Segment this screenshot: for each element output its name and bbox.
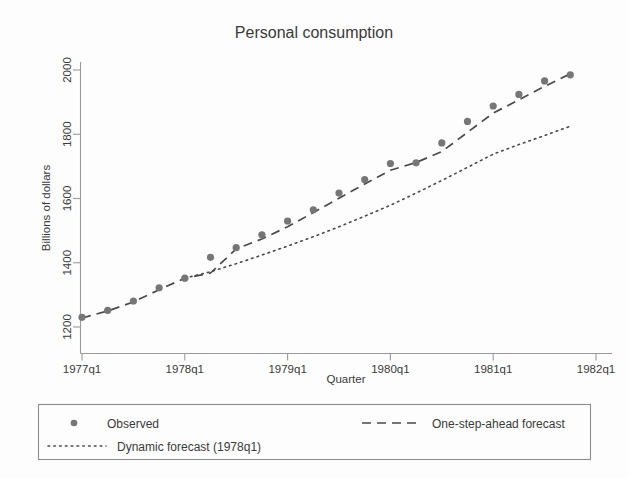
- x-tick-label: 1978q1: [166, 363, 204, 375]
- observed-data-point: [335, 189, 342, 196]
- chart-title: Personal consumption: [235, 24, 393, 41]
- observed-data-point: [567, 71, 574, 78]
- observed-data-point: [156, 284, 163, 291]
- x-tick-label: 1980q1: [371, 363, 409, 375]
- observed-data-point: [387, 160, 394, 167]
- x-axis-title: Quarter: [327, 373, 366, 385]
- legend-label-dynamic-forecast: Dynamic forecast (1978q1): [117, 440, 261, 454]
- legend-label-one-step-ahead: One-step-ahead forecast: [432, 417, 565, 431]
- observed-data-point: [310, 206, 317, 213]
- observed-data-point: [413, 159, 420, 166]
- chart-legend: Observed One-step-ahead forecast Dynamic…: [39, 405, 591, 460]
- legend-marker-observed: [71, 420, 78, 427]
- x-axis-ticks: 1977q11978q11979q11980q11981q11982q1: [63, 354, 615, 376]
- observed-data-point: [233, 244, 240, 251]
- x-tick-label: 1982q1: [577, 363, 615, 375]
- x-tick-label: 1979q1: [268, 363, 306, 375]
- x-tick-label: 1977q1: [63, 363, 101, 375]
- series-one-step-ahead-forecast: [82, 74, 570, 318]
- series-dynamic-forecast: [185, 126, 571, 278]
- y-axis-ticks: 12001400160018002000: [61, 57, 81, 340]
- observed-data-point: [284, 217, 291, 224]
- y-tick-label: 1400: [61, 250, 73, 276]
- series-observed-points: [78, 71, 574, 321]
- observed-data-point: [207, 254, 214, 261]
- observed-data-point: [438, 139, 445, 146]
- observed-data-point: [464, 118, 471, 125]
- observed-data-point: [515, 91, 522, 98]
- y-tick-label: 1800: [61, 121, 73, 147]
- y-axis-title: Billions of dollars: [40, 165, 52, 252]
- y-tick-label: 1200: [61, 314, 73, 340]
- observed-data-point: [490, 102, 497, 109]
- y-tick-label: 2000: [61, 57, 73, 83]
- personal-consumption-chart: Personal consumption 1200140016001800200…: [0, 0, 628, 478]
- chart-figure: Personal consumption 1200140016001800200…: [0, 0, 628, 478]
- observed-data-point: [258, 231, 265, 238]
- observed-data-point: [181, 275, 188, 282]
- observed-data-point: [130, 297, 137, 304]
- observed-data-point: [104, 307, 111, 314]
- y-tick-label: 1600: [61, 186, 73, 212]
- legend-label-observed: Observed: [107, 417, 159, 431]
- observed-data-point: [361, 176, 368, 183]
- observed-data-point: [541, 77, 548, 84]
- observed-data-point: [78, 314, 85, 321]
- x-tick-label: 1981q1: [474, 363, 512, 375]
